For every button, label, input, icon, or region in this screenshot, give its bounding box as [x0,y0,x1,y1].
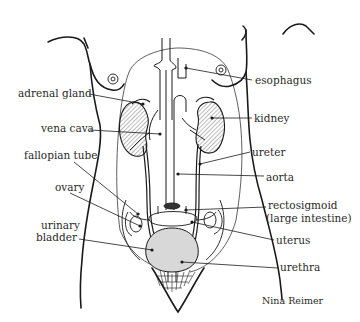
leader-adrenal-gland [89,94,143,104]
right-adrenal [196,97,214,102]
label-adrenal-gland: adrenal gland [18,87,92,99]
leader-urinary-bladder [79,239,152,250]
leader-ovary [70,193,140,226]
label-vena-cava: vena cava [41,122,94,134]
label-ovary: ovary [55,181,84,193]
pubic-region [155,270,195,292]
label-urinary-bladder-line2: bladder [36,231,77,243]
ureters [143,144,201,242]
left-kidney [120,102,149,156]
artist-credit: Nina Reimer [262,295,323,307]
label-urinary-bladder-line1: urinary [36,219,80,231]
leader-aorta [178,174,264,176]
label-rectosigmoid-line2: (large intestine) [266,212,352,224]
right-kidney [196,102,225,153]
label-ureter: ureter [252,146,285,158]
leader-ureter [200,152,250,164]
esophagus [154,38,186,120]
anatomy-diagram [0,0,360,322]
label-uterus: uterus [276,234,310,246]
label-rectosigmoid-line1: rectosigmoid [268,199,337,211]
label-aorta: aorta [266,171,294,183]
label-fallopian-tube: fallopian tube [24,149,98,161]
label-kidney: kidney [254,112,289,124]
leader-rectosigmoid [186,207,266,210]
label-urethra: urethra [280,261,320,273]
label-esophagus: esophagus [255,74,312,86]
leader-uterus [192,222,274,240]
urinary-bladder [146,228,199,282]
leader-urethra [182,262,278,268]
